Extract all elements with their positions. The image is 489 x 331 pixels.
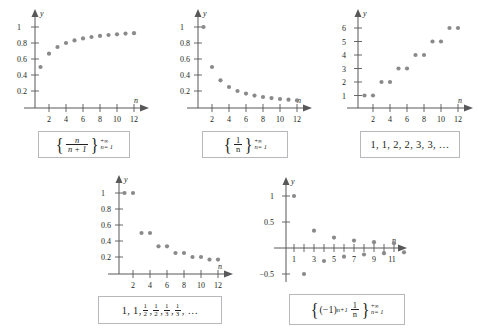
y-ticks: 1 0.5 −0.5 bbox=[259, 192, 290, 279]
brace-close: } bbox=[245, 135, 253, 154]
chart-3: y n 6 5 4 3 2 1 2 4 bbox=[330, 4, 488, 124]
y-ticks: 1 0.8 0.6 0.4 0.2 bbox=[180, 23, 202, 96]
x-axis-arrowhead bbox=[464, 105, 473, 112]
chart-panel-4: y n 1 0.8 0.6 0.4 0.2 2 4 6 bbox=[88, 170, 248, 290]
svg-text:10: 10 bbox=[276, 115, 284, 124]
chart-5-svg: y n 1 0.5 −0.5 1 3 5 7 bbox=[252, 170, 432, 290]
svg-text:12: 12 bbox=[214, 281, 222, 290]
chart-1: y n 1 0.8 0.6 0.4 0.2 2 4 bbox=[4, 4, 164, 124]
chart-1-svg: y n 1 0.8 0.6 0.4 0.2 2 4 bbox=[4, 4, 164, 124]
svg-text:0.4: 0.4 bbox=[101, 237, 111, 246]
svg-text:1: 1 bbox=[17, 23, 21, 32]
y-axis-arrowhead bbox=[283, 177, 290, 185]
sequence-limits: +∞ n= 1 bbox=[254, 138, 267, 151]
limit-subscript: n= 1 bbox=[101, 144, 114, 151]
x-ticks: 1 3 5 7 9 11 bbox=[292, 244, 396, 264]
brace-open: { bbox=[56, 135, 64, 154]
fraction-denominator: 2 bbox=[143, 310, 149, 318]
svg-text:4: 4 bbox=[227, 115, 231, 124]
fraction-one-over-n: 1 n bbox=[234, 136, 242, 154]
data-points bbox=[362, 26, 460, 98]
limit-subscript: n= 1 bbox=[254, 144, 267, 151]
svg-text:0.5: 0.5 bbox=[264, 218, 274, 227]
svg-text:8: 8 bbox=[182, 281, 186, 290]
svg-text:6: 6 bbox=[244, 115, 248, 124]
x-ticks: 2 4 6 8 10 12 bbox=[47, 104, 138, 124]
fraction-denominator: n + 1 bbox=[66, 144, 89, 154]
fraction-numerator: 1 bbox=[143, 303, 149, 310]
fraction-numerator: 1 bbox=[175, 303, 181, 310]
y-axis-arrowhead bbox=[116, 175, 123, 183]
y-axis-arrowhead bbox=[32, 9, 39, 17]
svg-text:0.6: 0.6 bbox=[180, 55, 190, 64]
fraction-denominator: n bbox=[351, 309, 359, 319]
data-points bbox=[122, 191, 220, 262]
brace-open: { bbox=[311, 300, 319, 319]
data-points bbox=[201, 25, 299, 103]
data-points bbox=[38, 31, 136, 69]
svg-text:4: 4 bbox=[342, 51, 346, 60]
chart-4-svg: y n 1 0.8 0.6 0.4 0.2 2 4 6 bbox=[88, 170, 248, 290]
svg-text:0.6: 0.6 bbox=[17, 55, 27, 64]
svg-text:2: 2 bbox=[342, 78, 346, 87]
fraction-numerator: 1 bbox=[234, 136, 242, 145]
svg-text:2: 2 bbox=[210, 115, 214, 124]
caption-4-prefix: 1, 1, bbox=[122, 305, 142, 316]
chart-2-svg: y n 1 0.8 0.6 0.4 0.2 2 4 6 bbox=[167, 4, 327, 124]
svg-text:0.8: 0.8 bbox=[180, 39, 190, 48]
x-axis-arrowhead bbox=[140, 105, 149, 112]
sequence-limits: +∞ n= 1 bbox=[371, 303, 384, 316]
svg-text:0.8: 0.8 bbox=[101, 205, 111, 214]
caption-4-sep-1: , bbox=[149, 305, 152, 316]
svg-text:0.2: 0.2 bbox=[180, 87, 190, 96]
svg-text:12: 12 bbox=[293, 115, 301, 124]
svg-text:−0.5: −0.5 bbox=[259, 270, 274, 279]
caption-2-math: { 1 n } +∞ n= 1 bbox=[223, 135, 267, 154]
fraction-denominator: 3 bbox=[175, 310, 181, 318]
svg-text:0.6: 0.6 bbox=[101, 221, 111, 230]
x-axis-arrowhead bbox=[303, 105, 312, 112]
chart-panel-2: y n 1 0.8 0.6 0.4 0.2 2 4 6 bbox=[167, 4, 327, 124]
svg-text:8: 8 bbox=[422, 115, 426, 124]
limit-subscript-eq: = 1 bbox=[258, 143, 267, 150]
y-axis-label: y bbox=[362, 9, 367, 18]
caption-1-math: { n n + 1 } +∞ n= 1 bbox=[55, 135, 113, 154]
fraction-numerator: 1 bbox=[164, 303, 170, 310]
y-axis-label: y bbox=[123, 175, 128, 184]
chart-panel-3: y n 6 5 4 3 2 1 2 4 bbox=[330, 4, 488, 124]
svg-text:5: 5 bbox=[332, 255, 336, 264]
svg-text:2: 2 bbox=[131, 281, 135, 290]
caption-4-suffix: , … bbox=[182, 305, 199, 316]
caption-box-2: { 1 n } +∞ n= 1 bbox=[202, 131, 288, 158]
svg-text:2: 2 bbox=[47, 115, 51, 124]
y-axis-arrowhead bbox=[195, 9, 202, 17]
svg-text:7: 7 bbox=[352, 255, 356, 264]
x-axis-label: n bbox=[218, 262, 222, 271]
svg-text:6: 6 bbox=[342, 24, 346, 33]
x-axis-arrowhead bbox=[224, 271, 233, 278]
fraction-denominator: 2 bbox=[153, 310, 159, 318]
limit-subscript-eq: = 1 bbox=[104, 143, 113, 150]
caption-box-5: { (−1) n+1 1 n } +∞ n= 1 bbox=[289, 294, 405, 325]
svg-text:6: 6 bbox=[165, 281, 169, 290]
x-ticks: 2 4 6 8 10 12 bbox=[131, 270, 222, 290]
svg-text:9: 9 bbox=[372, 255, 376, 264]
fraction-denominator: 3 bbox=[164, 310, 170, 318]
x-axis-arrowhead bbox=[398, 245, 407, 252]
fraction-1-2-a: 1 2 bbox=[143, 303, 149, 318]
svg-text:1: 1 bbox=[342, 92, 346, 101]
chart-2: y n 1 0.8 0.6 0.4 0.2 2 4 6 bbox=[167, 4, 327, 124]
svg-text:1: 1 bbox=[270, 192, 274, 201]
brace-close: } bbox=[362, 300, 370, 319]
caption-3-text: 1, 1, 2, 2, 3, 3, … bbox=[370, 139, 449, 150]
y-axis-label: y bbox=[202, 9, 207, 18]
svg-text:0.2: 0.2 bbox=[17, 87, 27, 96]
chart-panel-1: y n 1 0.8 0.6 0.4 0.2 2 4 bbox=[4, 4, 164, 124]
fraction-1-3-b: 1 3 bbox=[175, 303, 181, 318]
svg-text:10: 10 bbox=[437, 115, 445, 124]
caption-box-1: { n n + 1 } +∞ n= 1 bbox=[38, 131, 130, 158]
fraction-one-over-n: 1 n bbox=[351, 301, 359, 319]
limit-subscript: n= 1 bbox=[371, 309, 384, 316]
caption-box-3: 1, 1, 2, 2, 3, 3, … bbox=[360, 131, 460, 158]
y-axis-label: y bbox=[290, 177, 295, 186]
